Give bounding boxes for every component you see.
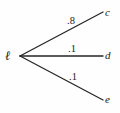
leaf-node-label-e: e bbox=[105, 94, 110, 105]
probability-tree-diagram: ℓ .8 .1 .1 c d e bbox=[0, 0, 120, 113]
leaf-node-label-d: d bbox=[105, 50, 111, 61]
edge-weight-to-e: .1 bbox=[69, 72, 77, 83]
edge-weight-to-c: .8 bbox=[67, 16, 75, 27]
edge-line-to-e bbox=[20, 56, 103, 100]
leaf-node-label-c: c bbox=[105, 7, 110, 18]
edge-weight-to-d: .1 bbox=[68, 44, 76, 55]
edge-line-to-c bbox=[20, 12, 103, 56]
root-node-label: ℓ bbox=[5, 49, 10, 62]
tree-edges-svg bbox=[0, 0, 120, 113]
